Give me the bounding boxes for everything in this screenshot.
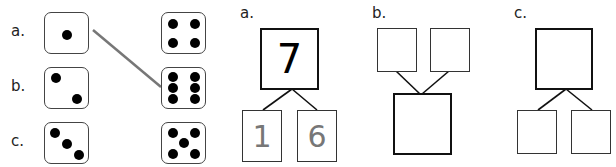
bond-label-b: b.: [372, 4, 386, 22]
matching-line: [93, 30, 161, 87]
bond-a-part-2[interactable]: 6: [297, 110, 337, 162]
bond-c-part-1[interactable]: [517, 110, 557, 154]
pip: [190, 19, 200, 29]
pip: [179, 138, 189, 148]
pip: [72, 94, 82, 104]
pip: [168, 83, 178, 93]
bond-label-c: c.: [514, 4, 527, 22]
pip: [168, 72, 178, 82]
pip: [74, 150, 84, 160]
bond-c-whole[interactable]: [535, 28, 593, 90]
bond-c-part-2[interactable]: [571, 110, 611, 154]
die-three[interactable]: [44, 122, 89, 164]
bond-label-a: a.: [240, 4, 254, 22]
pip: [190, 94, 200, 104]
pip: [51, 73, 61, 83]
bond-a-part-2-value: 6: [307, 119, 326, 154]
pip: [62, 30, 72, 40]
bond-b-part-1[interactable]: [377, 28, 417, 72]
pip: [190, 72, 200, 82]
die-four[interactable]: [161, 12, 206, 54]
pip: [190, 38, 200, 48]
die-five[interactable]: [161, 122, 206, 164]
bond-a-whole-value: 7: [277, 36, 302, 82]
pip: [190, 128, 200, 138]
pip: [50, 128, 60, 138]
pip: [190, 149, 200, 159]
pip: [168, 38, 178, 48]
bond-a-part-1[interactable]: 1: [242, 110, 282, 162]
row-label-a: a.: [11, 22, 25, 40]
pip: [168, 19, 178, 29]
bond-a-part-1-value: 1: [252, 119, 271, 154]
pip: [168, 94, 178, 104]
pip: [168, 128, 178, 138]
row-label-b: b.: [11, 77, 25, 95]
bond-b-part-2[interactable]: [430, 28, 470, 72]
die-six[interactable]: [161, 67, 206, 109]
pip: [62, 139, 72, 149]
bond-b-whole[interactable]: [393, 93, 452, 155]
pip: [168, 149, 178, 159]
pip: [190, 83, 200, 93]
die-two[interactable]: [44, 67, 89, 109]
bond-a-whole[interactable]: 7: [260, 28, 319, 90]
die-one[interactable]: [44, 12, 89, 54]
row-label-c: c.: [11, 132, 24, 150]
